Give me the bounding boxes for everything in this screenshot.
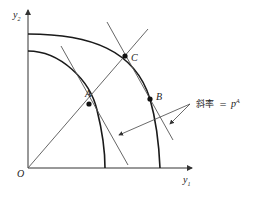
x-axis-label: y1 <box>182 174 190 187</box>
label-b: B <box>156 91 162 102</box>
y-axis-label: y2 <box>12 9 20 22</box>
point-b <box>147 96 152 101</box>
annotation-arrow-1 <box>119 104 190 135</box>
point-c <box>122 53 127 58</box>
inner-frontier-curve <box>28 51 105 168</box>
slope-annotation: 斜率 = pA <box>196 98 240 109</box>
point-a <box>86 101 91 106</box>
label-c: C <box>131 52 138 63</box>
production-possibility-diagram: A C B O y2 y1 斜率 = pA <box>0 0 253 197</box>
tangent-at-c <box>107 22 173 140</box>
label-a: A <box>84 88 92 99</box>
origin-label: O <box>17 168 24 179</box>
annotation-arrow-2 <box>170 104 190 124</box>
